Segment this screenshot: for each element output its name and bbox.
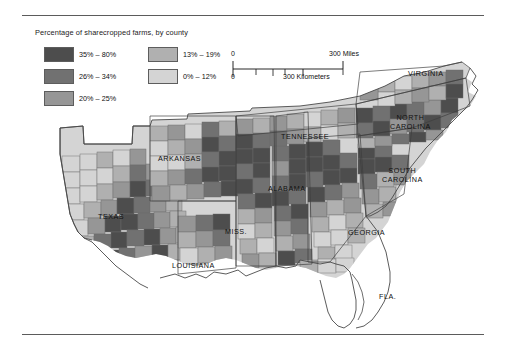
legend-item-label: 13% – 19% — [183, 50, 220, 59]
legend-item-label: 26% – 34% — [79, 72, 116, 81]
legend-item: 35% – 80% — [44, 43, 116, 65]
legend-column-right: 13% – 19% 0% – 12% — [148, 43, 220, 87]
legend-swatch — [44, 91, 74, 106]
scalebar-km-zero-label: 0 — [231, 73, 235, 80]
map-figure: Percentage of sharecropped farms, by cou… — [0, 0, 506, 349]
legend-item-label: 20% – 25% — [79, 94, 116, 103]
legend-item: 20% – 25% — [44, 87, 116, 109]
legend-item: 0% – 12% — [148, 65, 220, 87]
legend-swatch — [44, 47, 74, 62]
legend-swatch — [148, 69, 178, 84]
scalebar-miles-max-label: 300 Miles — [329, 50, 359, 57]
legend-columns: 35% – 80% 26% – 34% 20% – 25% 13% – 19% — [35, 43, 230, 115]
legend-item-label: 35% – 80% — [79, 50, 116, 59]
legend-swatch — [44, 69, 74, 84]
scalebar-miles-zero-label: 0 — [231, 50, 235, 57]
legend-column-left: 35% – 80% 26% – 34% 20% – 25% — [44, 43, 116, 109]
legend-item: 26% – 34% — [44, 65, 116, 87]
map-legend: Percentage of sharecropped farms, by cou… — [35, 28, 230, 115]
legend-item: 13% – 19% — [148, 43, 220, 65]
scalebar-km-max-label: 300 Kilometers — [283, 73, 330, 80]
legend-title: Percentage of sharecropped farms, by cou… — [35, 28, 230, 37]
map-scalebar: 0 300 Miles 0 300 Kilometers — [231, 50, 351, 84]
legend-item-label: 0% – 12% — [183, 72, 216, 81]
legend-swatch — [148, 47, 178, 62]
bottom-divider-rule — [22, 334, 484, 335]
